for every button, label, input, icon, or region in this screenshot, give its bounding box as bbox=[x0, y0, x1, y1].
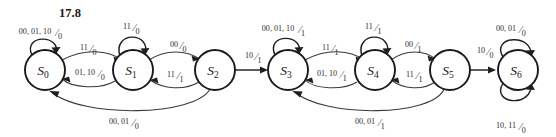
state-node-s4[interactable]: S4 bbox=[355, 50, 395, 90]
transition-label: 00, 01, 10⁄1 bbox=[262, 24, 305, 39]
transition-s4-s5: 00⁄1 bbox=[391, 40, 436, 62]
state-node-s5[interactable]: S5 bbox=[430, 50, 470, 90]
transition-s2-s3: 10⁄1 bbox=[235, 51, 268, 74]
transition-label: 11⁄0 bbox=[80, 43, 97, 58]
transition-label: 11⁄1 bbox=[167, 70, 184, 85]
transition-s5-s4: 11⁄1 bbox=[391, 70, 435, 88]
state-diagram-figure: 17.8 00, 01, 10⁄0 11⁄0 01, 10⁄0 11⁄0 bbox=[0, 0, 556, 137]
state-node-s6[interactable]: S6 bbox=[498, 50, 538, 90]
transition-s2-s0: 00, 01⁄0 bbox=[50, 89, 210, 131]
transition-label: 10⁄1 bbox=[245, 51, 262, 66]
transition-s0-s1: 11⁄0 bbox=[62, 43, 122, 63]
transition-s5-s3: 00, 01⁄1 bbox=[293, 89, 444, 131]
state-node-s3[interactable]: S3 bbox=[268, 50, 308, 90]
figure-title: 17.8 bbox=[59, 6, 81, 20]
transition-label: 11⁄1 bbox=[406, 70, 423, 85]
transition-s3-s4: 11⁄1 bbox=[305, 43, 364, 63]
transition-label: 10⁄0 bbox=[477, 46, 494, 61]
transition-label: 10, 11⁄0 bbox=[496, 121, 526, 136]
transition-label: 11⁄0 bbox=[123, 22, 140, 37]
transition-label: 00, 01⁄1 bbox=[355, 117, 385, 132]
edge-path bbox=[50, 89, 210, 111]
transition-label: 00, 01⁄0 bbox=[109, 117, 139, 132]
transition-label: 11⁄1 bbox=[322, 43, 339, 58]
edge-path bbox=[293, 89, 444, 111]
state-node-s0[interactable]: S0 bbox=[25, 50, 65, 90]
edge-path bbox=[62, 79, 115, 87]
state-node-s2[interactable]: S2 bbox=[195, 50, 235, 90]
transition-s1-s0: 01, 10⁄0 bbox=[62, 68, 115, 87]
transition-s1-s2: 00⁄0 bbox=[149, 40, 200, 62]
transition-label: 00, 01⁄0 bbox=[496, 24, 526, 39]
arrowhead bbox=[260, 67, 268, 74]
transition-s4-s3: 01, 10⁄1 bbox=[305, 69, 357, 88]
transition-s2-s1: 11⁄1 bbox=[150, 70, 199, 88]
transition-label: 01, 10⁄0 bbox=[75, 68, 105, 83]
transition-label: 01, 10⁄1 bbox=[317, 69, 347, 84]
transition-s5-s6: 10⁄0 bbox=[470, 46, 496, 74]
state-node-s1[interactable]: S1 bbox=[113, 50, 153, 90]
transition-label: 11⁄1 bbox=[365, 22, 382, 37]
fsm-diagram-canvas: 17.8 00, 01, 10⁄0 11⁄0 01, 10⁄0 11⁄0 bbox=[0, 0, 556, 137]
arrowhead bbox=[488, 67, 496, 74]
